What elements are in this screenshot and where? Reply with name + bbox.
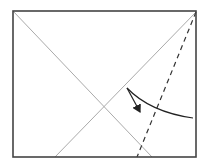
fold-arrow-curve [127,88,193,118]
fold-diagram [0,0,205,165]
crease-diagonal-left [13,11,152,157]
fold-arrow-icon [127,88,140,112]
paper-square [13,11,196,157]
valley-fold-line [137,12,196,157]
crease-diagonal-right [55,12,196,157]
